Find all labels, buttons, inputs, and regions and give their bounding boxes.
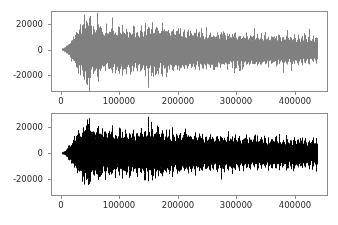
y-tick-label: 20000 <box>0 123 43 132</box>
y-tick-label: -20000 <box>0 175 43 184</box>
x-tick-mark <box>236 92 237 95</box>
x-tick-label: 100000 <box>103 97 135 106</box>
x-tick-mark <box>61 196 62 199</box>
top-waveform-plot <box>52 12 327 91</box>
x-tick-label: 300000 <box>220 201 252 210</box>
x-tick-mark <box>61 92 62 95</box>
y-tick-label: 0 <box>0 46 43 55</box>
x-tick-mark <box>178 92 179 95</box>
y-tick-label: 0 <box>0 149 43 158</box>
x-tick-label: 0 <box>58 97 63 106</box>
x-tick-mark <box>119 92 120 95</box>
x-tick-mark <box>178 196 179 199</box>
x-tick-label: 100000 <box>103 201 135 210</box>
bottom-waveform-axes <box>51 113 328 196</box>
x-tick-label: 400000 <box>279 201 311 210</box>
matplotlib-figure: -200000200000100000200000300000400000-20… <box>0 0 338 225</box>
x-tick-label: 300000 <box>220 97 252 106</box>
y-tick-label: 20000 <box>0 20 43 29</box>
x-tick-label: 200000 <box>162 97 194 106</box>
x-tick-label: 200000 <box>162 201 194 210</box>
x-tick-mark <box>295 92 296 95</box>
x-tick-label: 0 <box>58 201 63 210</box>
y-tick-label: -20000 <box>0 71 43 80</box>
bottom-waveform-plot <box>52 114 327 195</box>
x-tick-mark <box>295 196 296 199</box>
x-tick-label: 400000 <box>279 97 311 106</box>
x-tick-mark <box>236 196 237 199</box>
top-waveform-axes <box>51 11 328 92</box>
x-tick-mark <box>119 196 120 199</box>
